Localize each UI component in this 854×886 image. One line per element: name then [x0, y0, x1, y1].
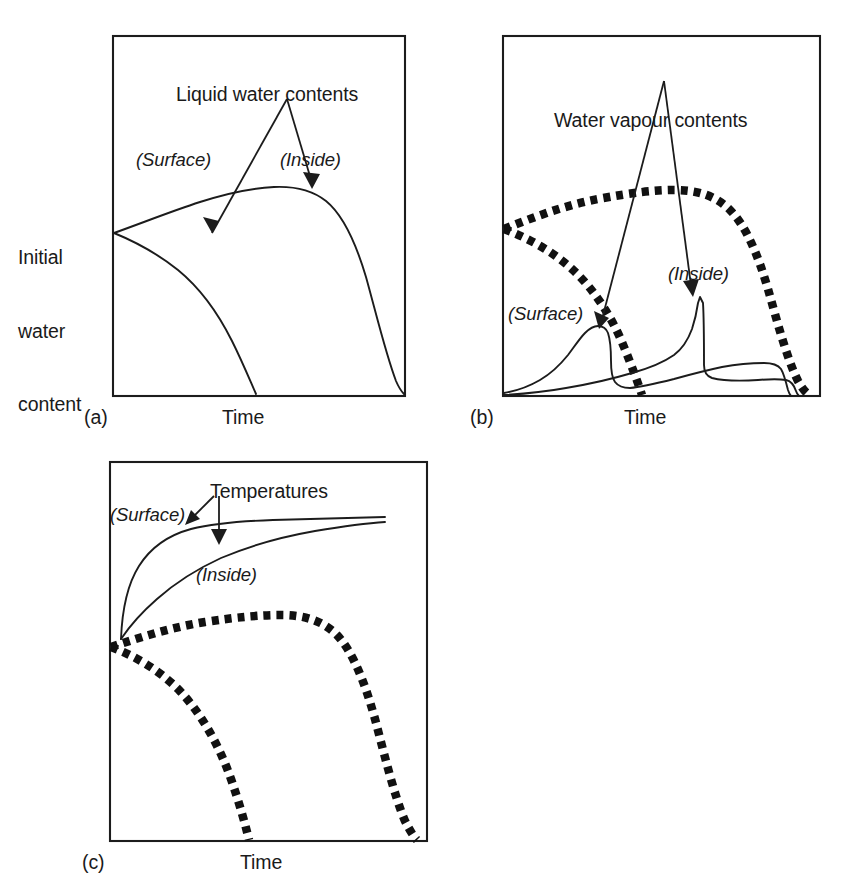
panel-a-y-axis-label-line2: water [18, 319, 81, 344]
panel-c-annotation-surface: (Surface) [110, 502, 185, 527]
panel-b-annotation-surface: (Surface) [508, 301, 583, 326]
panel-b-title: Water vapour contents [554, 108, 747, 133]
panel-a-y-axis-label-line3: content [18, 392, 81, 417]
panel-b-plot [502, 35, 821, 397]
panel-b-id: (b) [470, 405, 494, 430]
panel-a-x-axis-label: Time [222, 405, 264, 430]
panel-a-id: (a) [84, 405, 108, 430]
panel-a-annotation-surface: (Surface) [136, 147, 211, 172]
panel-b-annotation-inside: (Inside) [668, 261, 729, 286]
panel-c-x-axis-label: Time [240, 850, 282, 875]
figure-root: Liquid water contents (Surface) (Inside)… [0, 0, 854, 886]
panel-b-x-axis-label: Time [624, 405, 666, 430]
panel-a-y-axis-label: Initial water content [18, 196, 81, 466]
panel-c-id: (c) [82, 850, 104, 875]
panel-a-annotation-inside: (Inside) [280, 147, 341, 172]
panel-a-title: Liquid water contents [176, 82, 358, 107]
panel-a-y-axis-label-line1: Initial [18, 245, 81, 270]
panel-b [502, 35, 821, 397]
panel-c-annotation-inside: (Inside) [196, 562, 257, 587]
panel-c-title: Temperatures [210, 479, 328, 504]
